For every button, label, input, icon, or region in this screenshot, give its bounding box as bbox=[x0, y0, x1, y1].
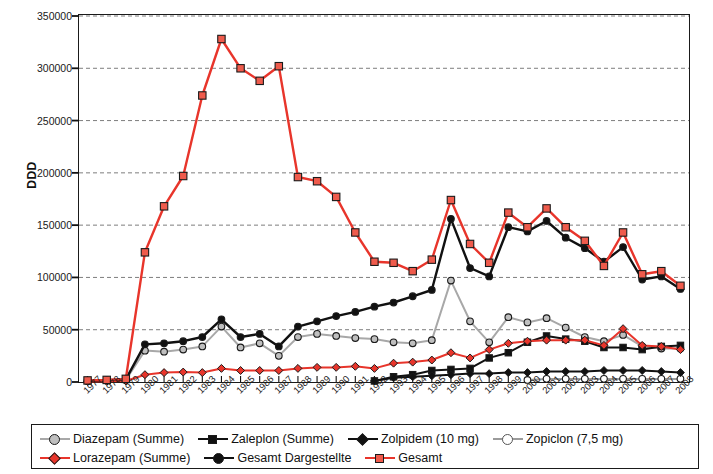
series-markers bbox=[84, 277, 684, 384]
legend-label: Zolpidem (10 mg) bbox=[381, 432, 479, 446]
legend-item-gesamt-dargestellte[interactable]: Gesamt Dargestellte bbox=[204, 451, 351, 465]
legend-label: Zaleplon (Summe) bbox=[231, 432, 334, 446]
legend-label: Diazepam (Summe) bbox=[73, 432, 184, 446]
x-axis-tick-labels: 1977197819791980198119821983198419851986… bbox=[0, 0, 713, 60]
circle-marker-icon bbox=[493, 433, 523, 445]
legend-item-lorazepam-summe[interactable]: Lorazepam (Summe) bbox=[40, 451, 190, 465]
legend-label: Gesamt bbox=[398, 451, 442, 465]
legend-row-1: Diazepam (Summe)Zaleplon (Summe)Zolpidem… bbox=[40, 429, 692, 448]
chart-page: DDD 050000100000150000200000250000300000… bbox=[0, 0, 713, 474]
legend-item-diazepam-summe[interactable]: Diazepam (Summe) bbox=[40, 432, 184, 446]
legend-label: Gesamt Dargestellte bbox=[237, 451, 351, 465]
diamond-marker-icon bbox=[40, 452, 70, 464]
square-marker-icon bbox=[198, 433, 228, 445]
square-marker-icon bbox=[365, 452, 395, 464]
legend-label: Zopiclon (7,5 mg) bbox=[526, 432, 623, 446]
chart-legend: Diazepam (Summe)Zaleplon (Summe)Zolpidem… bbox=[31, 424, 699, 469]
diamond-marker-icon bbox=[348, 433, 378, 445]
legend-item-zopiclon-7-5-mg[interactable]: Zopiclon (7,5 mg) bbox=[493, 432, 623, 446]
legend-item-zolpidem-10-mg[interactable]: Zolpidem (10 mg) bbox=[348, 432, 479, 446]
series-markers bbox=[84, 216, 684, 385]
legend-item-zaleplon-summe[interactable]: Zaleplon (Summe) bbox=[198, 432, 334, 446]
circle-marker-icon bbox=[40, 433, 70, 445]
legend-row-2: Lorazepam (Summe)Gesamt DargestellteGesa… bbox=[40, 448, 692, 467]
circle-marker-icon bbox=[204, 452, 234, 464]
legend-label: Lorazepam (Summe) bbox=[73, 451, 190, 465]
legend-item-gesamt[interactable]: Gesamt bbox=[365, 451, 442, 465]
series-markers bbox=[84, 35, 684, 384]
chart-canvas bbox=[0, 0, 713, 474]
